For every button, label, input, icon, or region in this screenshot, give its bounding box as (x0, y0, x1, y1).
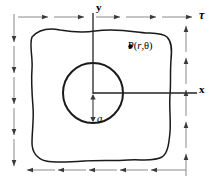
point-p-prefix: P( (128, 40, 137, 51)
y-axis-label: y (96, 2, 102, 13)
radius-dimension (90, 94, 95, 122)
plate-shear-diagram (0, 0, 215, 179)
figure-container: y x τ a P(r,θ) (0, 0, 215, 179)
hole-radius-label: a (97, 113, 103, 124)
x-axis-label: x (199, 84, 205, 95)
point-p-label: P(r,θ) (128, 41, 153, 52)
point-p-suffix: ) (149, 40, 153, 51)
coordinate-axes (93, 13, 197, 94)
shear-stress-label: τ (199, 9, 204, 21)
